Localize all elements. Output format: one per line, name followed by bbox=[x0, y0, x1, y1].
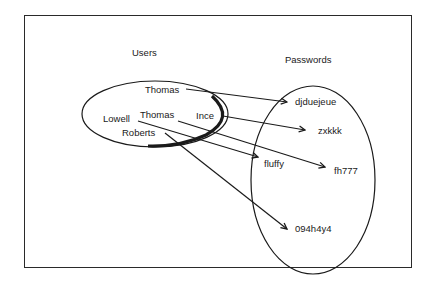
user-lowell: Lowell bbox=[103, 114, 130, 124]
user-thomas-2: Thomas bbox=[140, 110, 174, 120]
passwords-set-title: Passwords bbox=[285, 55, 331, 65]
password-fluffy: fluffy bbox=[264, 159, 284, 169]
password-djduejeue: djduejeue bbox=[295, 97, 336, 107]
arrow-ince-zxkkk bbox=[223, 116, 305, 130]
users-set-title: Users bbox=[132, 48, 157, 58]
user-roberts: Roberts bbox=[122, 128, 155, 138]
passwords-ellipse bbox=[251, 86, 375, 274]
password-094h4y4: 094h4y4 bbox=[295, 224, 331, 234]
diagram-graphics bbox=[0, 0, 434, 282]
password-zxkkk: zxkkk bbox=[318, 126, 342, 136]
diagram-canvas: Users Passwords Thomas Lowell Thomas Inc… bbox=[0, 0, 434, 282]
user-thomas-1: Thomas bbox=[145, 85, 179, 95]
user-ince: Ince bbox=[196, 111, 214, 121]
arrow-lowell-fluffy bbox=[138, 121, 258, 157]
arrow-thomas-djduejeue bbox=[186, 89, 287, 102]
password-fh777: fh777 bbox=[334, 166, 358, 176]
